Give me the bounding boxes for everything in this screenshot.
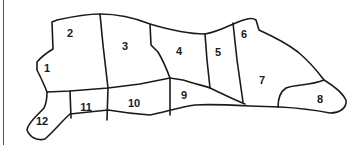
diagram-svg: 1 2 3 4 5 6 7 8 9 10 11 12 [0,0,362,145]
region-label-3: 3 [122,40,128,52]
region-label-9: 9 [181,89,187,101]
region-label-1: 1 [44,62,50,74]
divider-2-3 [100,14,108,120]
region-label-4: 4 [176,45,183,57]
region-label-6: 6 [241,28,247,40]
carcass-outline [27,14,346,140]
region-label-11: 11 [80,101,92,113]
region-label-2: 2 [67,27,73,39]
region-label-10: 10 [128,97,140,109]
region-label-12: 12 [36,115,48,127]
cut-diagram: 1 2 3 4 5 6 7 8 9 10 11 12 [0,0,362,145]
region-label-5: 5 [215,46,221,58]
divider-4-5 [205,34,210,88]
divider-11-12 [70,91,71,118]
divider-3-4 [150,24,170,115]
region-label-8: 8 [317,93,323,105]
region-label-7: 7 [259,74,265,86]
